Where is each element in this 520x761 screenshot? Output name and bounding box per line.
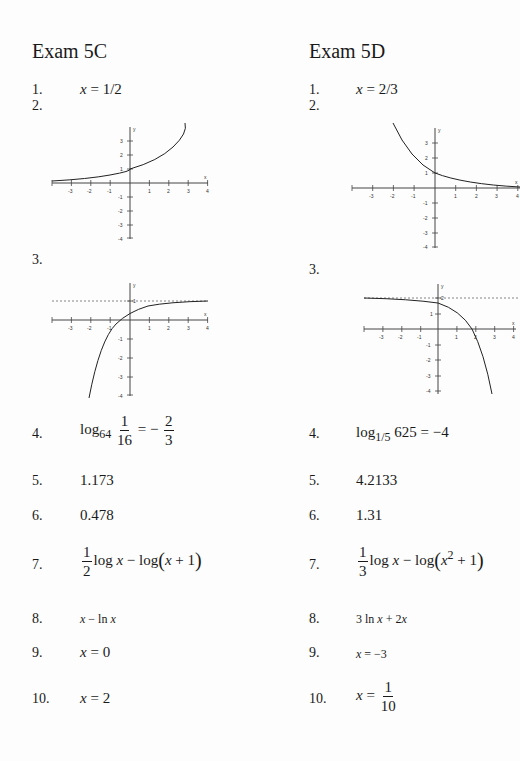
item-number: 10.: [309, 691, 327, 707]
svg-text:-2: -2: [398, 334, 403, 340]
answer-5d-9: x = −3: [356, 647, 387, 662]
svg-text:3: 3: [187, 188, 190, 194]
svg-text:x: x: [204, 174, 207, 180]
svg-text:2: 2: [441, 295, 444, 301]
answer-5d-6: 1.31: [356, 507, 382, 524]
graph-5c-2: yx -3-2-1 1234 321 -1-2-3-4: [48, 95, 218, 245]
item-number: 3.: [32, 252, 43, 268]
svg-text:y: y: [133, 282, 136, 288]
svg-text:x: x: [512, 320, 515, 326]
svg-text:x: x: [515, 179, 518, 185]
svg-text:-4: -4: [118, 393, 123, 399]
svg-text:-3: -3: [379, 334, 384, 340]
svg-text:-1: -1: [423, 200, 428, 206]
item-number: 2.: [32, 98, 43, 114]
svg-text:2: 2: [425, 155, 428, 161]
item-number: 7.: [32, 557, 43, 573]
item-number: 5.: [309, 473, 320, 489]
svg-text:1: 1: [148, 325, 151, 331]
svg-text:3: 3: [493, 334, 496, 340]
svg-text:-1: -1: [118, 194, 123, 200]
svg-text:-2: -2: [87, 188, 92, 194]
item-number: 8.: [32, 611, 43, 627]
exam-5d-title: Exam 5D: [309, 40, 385, 63]
svg-text:2: 2: [120, 152, 123, 158]
svg-text:y: y: [441, 283, 444, 289]
item-number: 2.: [309, 98, 320, 114]
svg-text:3: 3: [187, 325, 190, 331]
svg-text:-2: -2: [118, 208, 123, 214]
svg-text:-1: -1: [426, 342, 431, 348]
svg-text:2: 2: [167, 325, 170, 331]
svg-text:-2: -2: [87, 325, 92, 331]
svg-text:4: 4: [206, 188, 209, 194]
svg-text:y: y: [133, 126, 136, 132]
item-number: 10.: [32, 691, 50, 707]
item-number: 7.: [309, 557, 320, 573]
svg-text:-3: -3: [426, 373, 431, 379]
svg-text:1: 1: [148, 188, 151, 194]
svg-text:-3: -3: [423, 230, 428, 236]
svg-text:1: 1: [454, 193, 457, 199]
svg-text:-3: -3: [68, 188, 73, 194]
item-number: 1.: [309, 82, 320, 98]
item-number: 4.: [309, 426, 320, 442]
item-number: 4.: [32, 426, 43, 442]
item-number: 6.: [309, 508, 320, 524]
svg-text:2: 2: [167, 188, 170, 194]
svg-text:3: 3: [425, 140, 428, 146]
svg-text:-1: -1: [107, 188, 112, 194]
svg-text:1: 1: [455, 334, 458, 340]
svg-text:x: x: [204, 311, 207, 317]
item-number: 8.: [309, 611, 320, 627]
svg-text:-4: -4: [423, 244, 428, 250]
answer-5c-8: x − ln x: [80, 612, 116, 627]
answer-5d-10: x = 110: [356, 680, 398, 714]
graph-5d-3: yx -3-2-1 1234 21 -1-2-3-4: [360, 282, 520, 402]
item-number: 3.: [309, 262, 320, 278]
item-number: 9.: [32, 645, 43, 661]
answer-5d-8: 3 ln x + 2x: [356, 612, 407, 627]
answer-5d-5: 4.2133: [356, 472, 397, 489]
svg-text:-2: -2: [390, 193, 395, 199]
answer-5d-7: 13log x − log(x2 + 1): [356, 545, 484, 579]
svg-text:-3: -3: [118, 374, 123, 380]
svg-text:1: 1: [430, 311, 433, 317]
exam-5c-title: Exam 5C: [32, 40, 107, 63]
svg-text:-2: -2: [118, 355, 123, 361]
answer-5d-4: log1/5 625 = −4: [356, 424, 449, 445]
svg-text:-1: -1: [417, 334, 422, 340]
svg-text:-4: -4: [118, 236, 123, 242]
svg-text:4: 4: [206, 325, 209, 331]
svg-text:-4: -4: [426, 388, 431, 394]
answer-5c-4: log64 116 = − 23: [80, 414, 176, 448]
svg-text:y: y: [438, 127, 441, 133]
answer-5c-7: 12log x − log(x + 1): [80, 545, 202, 579]
item-number: 9.: [309, 645, 320, 661]
svg-text:4: 4: [516, 193, 519, 199]
answer-5c-5: 1.173: [80, 472, 114, 489]
svg-text:1: 1: [425, 170, 428, 176]
svg-text:1: 1: [120, 166, 123, 172]
answer-5c-6: 0.478: [80, 507, 114, 524]
svg-text:-3: -3: [369, 193, 374, 199]
svg-text:-3: -3: [118, 222, 123, 228]
svg-text:-2: -2: [426, 357, 431, 363]
graph-5c-3: yx -3-2-1 1234 1 -1-2-3-4: [48, 278, 218, 400]
answer-5d-1: x = 2/3: [356, 81, 398, 98]
item-number: 6.: [32, 508, 43, 524]
svg-text:1: 1: [133, 298, 136, 304]
svg-text:3: 3: [120, 138, 123, 144]
svg-text:-2: -2: [423, 215, 428, 221]
svg-text:3: 3: [495, 193, 498, 199]
svg-text:2: 2: [475, 193, 478, 199]
svg-text:-1: -1: [118, 336, 123, 342]
answer-5c-9: x = 0: [80, 644, 110, 661]
svg-text:-3: -3: [68, 325, 73, 331]
graph-5d-2: yx -3-2-1 1234 321 -1-2-3-4: [348, 100, 520, 255]
svg-text:-1: -1: [411, 193, 416, 199]
item-number: 1.: [32, 82, 43, 98]
answer-5c-10: x = 2: [80, 690, 110, 707]
item-number: 5.: [32, 473, 43, 489]
svg-text:4: 4: [512, 334, 515, 340]
